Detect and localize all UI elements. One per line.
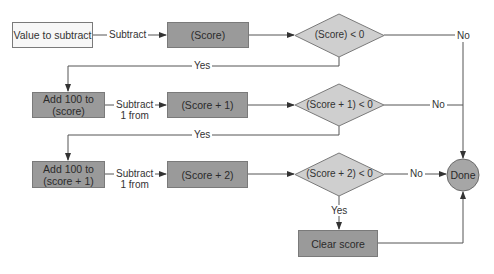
edge-label-subtract-1-from-a: Subtract 1 from [114,99,155,121]
edge-label-yes-1: Yes [192,60,212,71]
edge-label-no-2: No [430,99,447,110]
edge-label-subtract-1-from-b: Subtract 1 from [114,168,155,190]
node-add100-score-plus-1: Add 100 to (score + 1) [32,161,105,188]
node-label: Add 100 to (score + 1) [43,163,94,187]
node-label: Clear score [311,238,365,250]
decision-text-1: (Score) < 0 [295,29,384,40]
decision-text-3: (Score + 2) < 0 [295,168,384,179]
edge-label-subtract: Subtract [107,29,148,40]
node-add100-score: Add 100 to (score) [32,92,105,118]
decision-text-2: (Score + 1) < 0 [295,99,384,110]
node-score-plus-1: (Score + 1) [167,92,248,118]
node-label: Add 100 to (score) [43,93,94,117]
node-score: (Score) [167,22,249,48]
node-label: Value to subtract [13,29,91,41]
edge-label-no-3: No [408,168,425,179]
node-value-to-subtract: Value to subtract [12,22,93,48]
node-label: (Score) [191,29,225,41]
node-score-plus-2: (Score + 2) [167,161,248,188]
node-clear-score: Clear score [298,230,378,257]
edge-label-yes-3: Yes [329,205,349,216]
edge-label-no-1: No [455,30,472,41]
node-label: (Score + 1) [181,99,233,111]
edge-clear-to-done [378,192,463,243]
done-label: Done [447,169,479,181]
node-label: (Score + 2) [181,169,233,181]
edge-label-yes-2: Yes [192,129,212,140]
